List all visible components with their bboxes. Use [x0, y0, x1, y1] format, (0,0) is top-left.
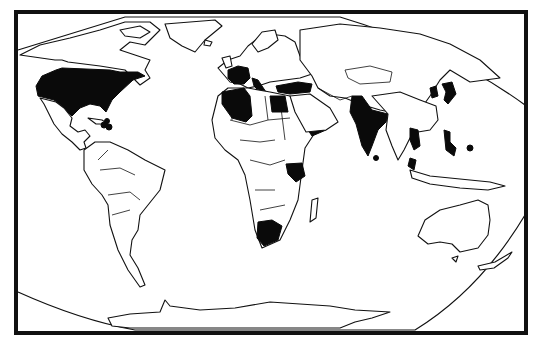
highlight-south-africa [257, 220, 282, 246]
highlight-pacific-island [467, 145, 473, 151]
land-indonesia [410, 170, 505, 190]
land-south-america [84, 142, 165, 287]
world-map [0, 0, 541, 343]
highlight-egypt [270, 96, 288, 112]
highlight-caribbean-2 [106, 124, 112, 130]
land-australia [418, 200, 490, 252]
highlight-turkey [276, 82, 312, 94]
highlight-japan [442, 82, 456, 104]
land-tasmania [452, 256, 458, 262]
highlight-vietnam [410, 128, 420, 150]
highlight-philippines [444, 130, 456, 156]
land-madagascar [310, 198, 318, 222]
land-greenland [165, 20, 222, 52]
land-antarctica [108, 300, 390, 328]
highlight-malaysia [408, 158, 416, 170]
highlight-sri-lanka [374, 156, 379, 161]
highlight-caribbean-3 [105, 119, 110, 124]
highlight-france [228, 66, 250, 84]
highlight-korea [430, 86, 438, 98]
land-new-zealand [478, 252, 512, 270]
